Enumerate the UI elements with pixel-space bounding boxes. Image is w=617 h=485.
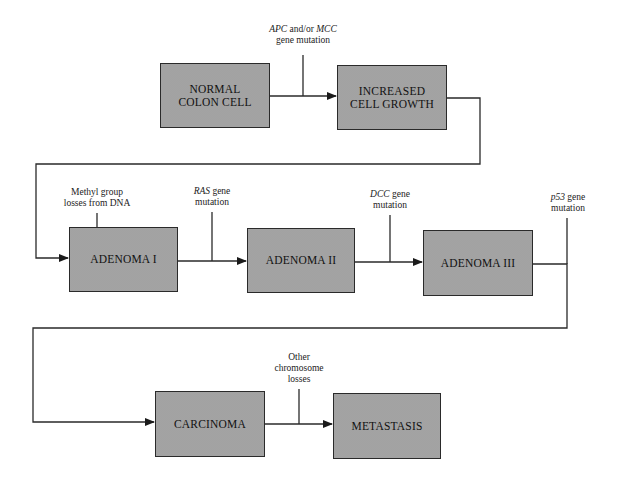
box-adenoma-2: ADENOMA II — [247, 228, 355, 293]
label-p53-mutation: p53 gene mutation — [538, 192, 598, 214]
label-apc-mcc-mutation: APC and/or MCC gene mutation — [243, 24, 363, 46]
gene-dcc: DCC — [370, 189, 390, 199]
gene-mcc: MCC — [316, 24, 337, 34]
gene-apc: APC — [269, 24, 287, 34]
label-dcc-mutation: DCC gene mutation — [360, 189, 420, 211]
methyl-line2: losses from DNA — [52, 198, 142, 209]
box-carcinoma: CARCINOMA — [155, 391, 265, 457]
box-adenoma-1: ADENOMA I — [69, 227, 178, 292]
box-normal-line1: NORMAL — [178, 83, 251, 96]
ras-line2: mutation — [182, 197, 242, 208]
other-line1: Other — [264, 352, 334, 363]
p53-line2: mutation — [538, 203, 598, 214]
apc-conjunction: and/or — [287, 24, 316, 34]
box-adenoma-3: ADENOMA III — [423, 230, 533, 296]
box-normal-line2: COLON CELL — [178, 96, 251, 109]
other-line3: losses — [264, 374, 334, 385]
box-increased-line1: INCREASED — [350, 85, 434, 98]
box-carcinoma-label: CARCINOMA — [174, 418, 246, 431]
colon-cancer-progression-diagram: NORMAL COLON CELL INCREASED CELL GROWTH … — [0, 0, 617, 485]
other-line2: chromosome — [264, 363, 334, 374]
box-normal-colon-cell: NORMAL COLON CELL — [160, 63, 270, 128]
gene-p53: p53 — [551, 192, 565, 202]
box-adenoma2-label: ADENOMA II — [266, 254, 337, 267]
gene-ras: RAS — [194, 186, 210, 196]
ras-rest: gene — [210, 186, 230, 196]
box-metastasis: METASTASIS — [333, 393, 441, 459]
box-metastasis-label: METASTASIS — [351, 420, 422, 433]
box-adenoma3-label: ADENOMA III — [441, 257, 516, 270]
dcc-rest: gene — [390, 189, 410, 199]
apc-line2: gene mutation — [243, 35, 363, 46]
p53-rest: gene — [565, 192, 585, 202]
box-adenoma1-label: ADENOMA I — [90, 253, 157, 266]
dcc-line2: mutation — [360, 200, 420, 211]
methyl-line1: Methyl group — [52, 187, 142, 198]
label-other-chromosome-losses: Other chromosome losses — [264, 352, 334, 385]
box-increased-line2: CELL GROWTH — [350, 98, 434, 111]
label-ras-mutation: RAS gene mutation — [182, 186, 242, 208]
box-increased-cell-growth: INCREASED CELL GROWTH — [337, 65, 447, 130]
label-methyl-group-losses: Methyl group losses from DNA — [52, 187, 142, 209]
